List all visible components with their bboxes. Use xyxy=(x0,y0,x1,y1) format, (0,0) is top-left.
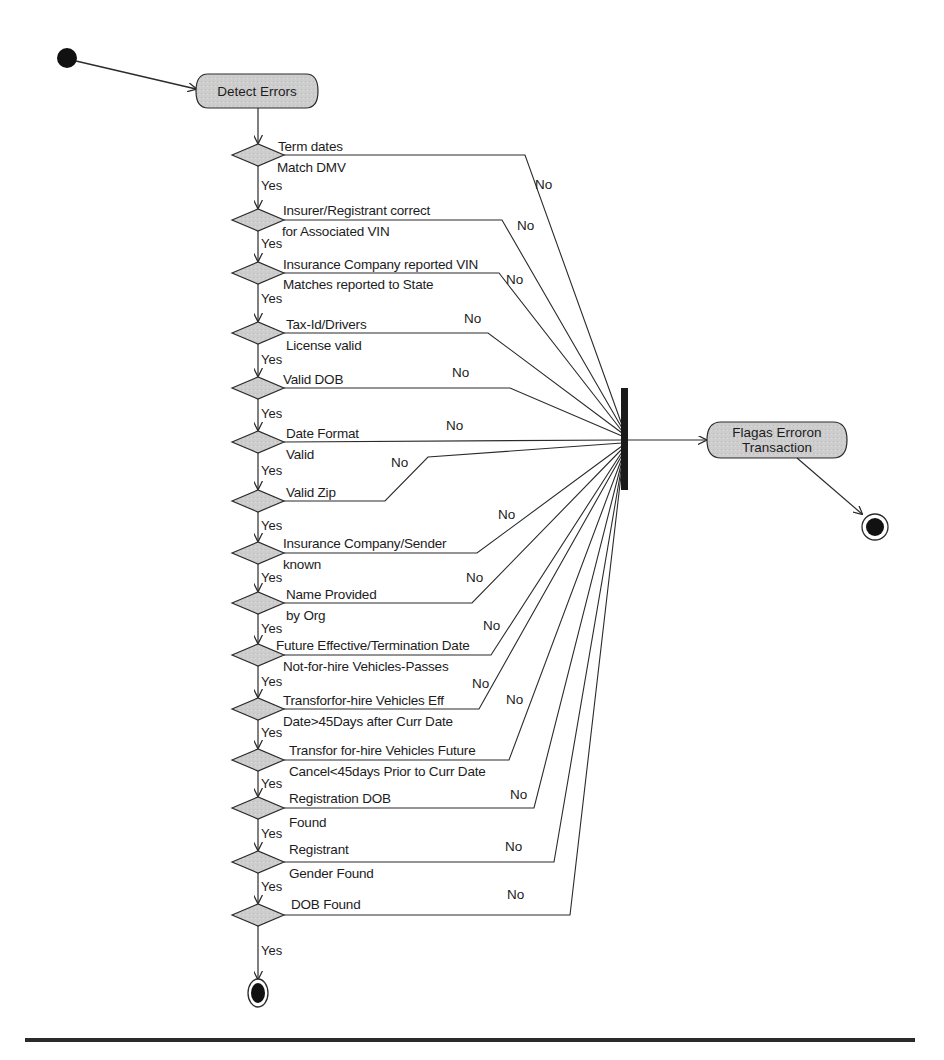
decision-15-line1: DOB Found xyxy=(291,897,360,912)
yes-label: Yes xyxy=(261,292,282,306)
decision-10-line2: Not-for-hire Vehicles-Passes xyxy=(283,659,448,674)
decision-2-line2: for Associated VIN xyxy=(282,224,389,239)
decision-1-line2: Match DMV xyxy=(277,160,346,175)
decision-8-line1: Insurance Company/Sender xyxy=(283,536,446,551)
decision-8-line2: known xyxy=(283,557,321,572)
decision-12-line2: Cancel<45days Prior to Curr Date xyxy=(289,764,486,779)
decision-4-line1: Tax-Id/Drivers xyxy=(286,317,366,332)
decision-diamond-icon xyxy=(232,797,284,819)
page-rule-divider xyxy=(25,1038,915,1042)
decision-6-line1: Date Format xyxy=(286,426,359,441)
no-label: No xyxy=(483,618,500,633)
yes-label: Yes xyxy=(261,827,282,841)
decision-diamond-icon xyxy=(232,377,284,399)
activity-diagram xyxy=(0,0,944,1060)
detect-errors-label: Detect Errors xyxy=(217,84,297,99)
yes-label: Yes xyxy=(261,464,282,478)
decision-diamond-icon xyxy=(232,698,284,720)
decision-11-line1: Transforfor-hire Vehicles Eff xyxy=(283,693,444,708)
decision-5-line1: Valid DOB xyxy=(283,372,343,387)
no-label: No xyxy=(510,787,527,802)
yes-label: Yes xyxy=(261,353,282,367)
flag-error-label-line1: Flagas Erroron xyxy=(732,425,821,440)
decision-3-line1: Insurance Company reported VIN xyxy=(283,257,478,272)
no-label: No xyxy=(452,365,469,380)
yes-label: Yes xyxy=(261,726,282,740)
yes-label: Yes xyxy=(261,571,282,585)
decision-diamond-icon xyxy=(232,904,284,926)
yes-label: Yes xyxy=(261,519,282,533)
yes-label: Yes xyxy=(261,179,282,193)
decision-4-line2: License valid xyxy=(286,338,361,353)
decision-2-line1: Insurer/Registrant correct xyxy=(283,203,430,218)
start-arrow xyxy=(76,61,196,89)
detect-errors-action: Detect Errors xyxy=(196,74,318,108)
final-yes-label: Yes xyxy=(261,944,282,958)
error-end-node-icon xyxy=(862,514,888,540)
no-label: No xyxy=(466,570,483,585)
decision-1-line1: Term dates xyxy=(278,139,343,154)
decision-10-line1: Future Effective/Termination Date xyxy=(276,638,470,653)
no-label: No xyxy=(535,177,552,192)
yes-label: Yes xyxy=(261,880,282,894)
no-label: No xyxy=(505,839,522,854)
no-label: No xyxy=(507,887,524,902)
decision-diamond-icon xyxy=(232,749,284,771)
decision-diamond-icon xyxy=(232,851,284,873)
start-node-icon xyxy=(57,48,77,68)
decision-14-line2: Gender Found xyxy=(289,866,374,881)
yes-label: Yes xyxy=(261,237,282,251)
no-label: No xyxy=(446,418,463,433)
success-end-node-icon xyxy=(248,979,268,1007)
decision-13-line2: Found xyxy=(289,815,326,830)
yes-label: Yes xyxy=(261,777,282,791)
no-label: No xyxy=(472,676,489,691)
decision-9-line2: by Org xyxy=(286,608,325,623)
decision-6-line2: Valid xyxy=(286,447,314,462)
decision-13-line1: Registration DOB xyxy=(289,791,391,806)
flag-error-label-line2: Transaction xyxy=(742,440,812,455)
no-label: No xyxy=(391,455,408,470)
no-label: No xyxy=(464,311,481,326)
decision-12-line1: Transfor for-hire Vehicles Future xyxy=(289,743,475,758)
decision-3-line2: Matches reported to State xyxy=(283,277,433,292)
decision-9-line1: Name Provided xyxy=(286,587,376,602)
decision-diamond-icon xyxy=(232,542,284,564)
decision-diamond-icon xyxy=(232,490,284,512)
no-label: No xyxy=(517,218,534,233)
decision-diamond-icon xyxy=(232,592,284,614)
no-label: No xyxy=(506,692,523,707)
yes-label: Yes xyxy=(261,407,282,421)
no-label: No xyxy=(498,507,515,522)
decision-diamond-icon xyxy=(232,322,284,344)
decision-diamond-icon xyxy=(232,431,284,453)
decision-7-line1: Valid Zip xyxy=(286,485,336,500)
yes-label: Yes xyxy=(261,622,282,636)
join-bar xyxy=(621,388,628,490)
decision-14-line1: Registrant xyxy=(289,842,349,857)
flag-error-action: Flagas Erroron Transaction xyxy=(707,422,847,458)
decision-diamond-icon xyxy=(232,209,284,231)
no-label: No xyxy=(506,272,523,287)
decision-11-line2: Date>45Days after Curr Date xyxy=(283,714,453,729)
decision-diamond-icon xyxy=(232,262,284,284)
yes-label: Yes xyxy=(261,675,282,689)
